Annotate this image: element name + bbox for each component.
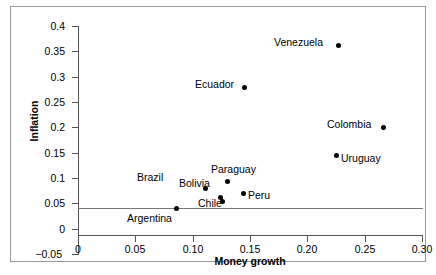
- x-tick-0: [78, 236, 79, 242]
- data-point-uruguay: [334, 153, 339, 158]
- zero-reference-line: [78, 208, 423, 209]
- scatter-plot-area: 0.4 0.35 0.3 0.25 0.2 0.15 0.1 0.05 0 −0…: [11, 7, 436, 275]
- x-tick-label-0.05: 0.05: [112, 244, 158, 255]
- y-tick-0.25: [72, 102, 78, 103]
- x-axis-title: Money growth: [180, 255, 320, 267]
- y-tick-label-0.1: 0.1: [25, 173, 65, 183]
- x-tick-0.30: [422, 236, 423, 242]
- x-tick-0.10: [193, 236, 194, 242]
- data-point-venezuela: [336, 43, 341, 48]
- y-tick-0.35: [72, 51, 78, 52]
- y-tick-label-0: 0: [25, 224, 65, 234]
- x-tick-label-0.20: 0.20: [284, 244, 330, 255]
- x-tick-0.15: [250, 236, 251, 242]
- y-tick-label-0.4: 0.4: [25, 21, 65, 31]
- y-tick-0.2: [72, 127, 78, 128]
- y-tick-0.4: [72, 26, 78, 27]
- y-axis-title: Inflation: [28, 86, 40, 156]
- x-tick-0.25: [365, 236, 366, 242]
- y-tick-0: [72, 229, 78, 230]
- x-tick-label-0.15: 0.15: [227, 244, 273, 255]
- data-point-paraguay: [225, 179, 230, 184]
- point-label-brazil: Brazil: [137, 172, 163, 183]
- data-point-colombia: [381, 125, 386, 130]
- data-point-argentina: [174, 206, 179, 211]
- data-point-peru: [241, 191, 246, 196]
- point-label-paraguay: Paraguay: [211, 164, 256, 175]
- y-tick-0.05: [72, 203, 78, 204]
- x-tick-label-0.25: 0.25: [342, 244, 388, 255]
- data-point-ecuador: [242, 85, 247, 90]
- y-tick-0.3: [72, 77, 78, 78]
- point-label-ecuador: Ecuador: [195, 79, 234, 90]
- point-label-chile: Chile: [198, 198, 222, 209]
- point-label-peru: Peru: [248, 190, 270, 201]
- x-tick-label-0.10: 0.10: [170, 244, 216, 255]
- point-label-argentina: Argentina: [127, 213, 172, 224]
- point-label-uruguay: Uruguay: [341, 153, 381, 164]
- x-tick-0.05: [135, 236, 136, 242]
- y-tick-label-0.3: 0.3: [25, 72, 65, 82]
- y-tick-0.1: [72, 178, 78, 179]
- chart-figure: 0.4 0.35 0.3 0.25 0.2 0.15 0.1 0.05 0 −0…: [10, 6, 426, 262]
- x-tick-label-0: 0: [55, 244, 101, 255]
- x-tick-label-0.30: 0.30: [399, 244, 436, 255]
- y-tick-0.15: [72, 153, 78, 154]
- point-label-colombia: Colombia: [327, 119, 371, 130]
- y-axis-line: [78, 26, 79, 255]
- y-tick-label-0.35: 0.35: [25, 46, 65, 56]
- point-label-venezuela: Venezuela: [274, 37, 323, 48]
- point-label-bolivia: Bolivia: [179, 178, 210, 189]
- x-tick-0.20: [307, 236, 308, 242]
- y-tick-label-0.05: 0.05: [25, 198, 65, 208]
